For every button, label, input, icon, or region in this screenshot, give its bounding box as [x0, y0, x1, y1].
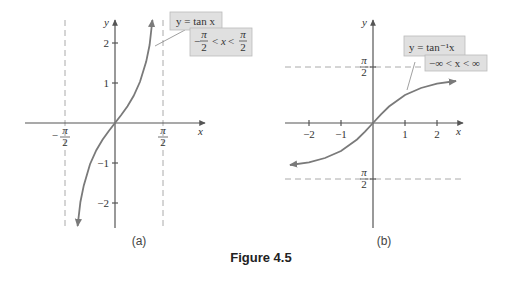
- callout-line-b: [407, 62, 415, 90]
- x-tick-1: 1: [402, 128, 408, 140]
- caption-b: (b): [377, 234, 392, 248]
- svg-text:π: π: [201, 28, 207, 40]
- svg-text:<: <: [212, 35, 218, 47]
- y-tick-neg2: −2: [97, 197, 109, 209]
- y-tick-2: 2: [104, 37, 110, 49]
- y-tick-1: 1: [104, 77, 110, 89]
- caption-a: (a): [132, 234, 147, 248]
- domain-label-b: −∞ < x < ∞: [429, 57, 480, 69]
- x-axis-label-b: x: [455, 125, 461, 137]
- function-label-b: y = tan⁻¹x: [409, 41, 455, 53]
- panel-a: x y 2 1 −1 −2 − π 2 π 2 y =: [25, 12, 252, 248]
- panel-b: x y −2 −1 1 2 π 2 π 2: [285, 16, 487, 248]
- svg-text:2: 2: [160, 136, 166, 148]
- y-axis-label-b: y: [361, 16, 367, 28]
- svg-text:π: π: [240, 28, 246, 40]
- y-axis-label: y: [103, 16, 109, 28]
- svg-text:−: −: [194, 35, 200, 47]
- x-tick-neg-pi-over-2: − π 2: [52, 124, 70, 148]
- x-tick-2: 2: [434, 128, 440, 140]
- y-tick-neg1: −1: [97, 157, 109, 169]
- svg-text:π: π: [62, 124, 68, 136]
- x-tick-neg2: −2: [303, 128, 315, 140]
- svg-text:−: −: [52, 129, 58, 141]
- svg-text:2: 2: [62, 136, 68, 148]
- callout-line-a: [155, 30, 185, 46]
- svg-text:2: 2: [361, 178, 367, 190]
- svg-text:x: x: [220, 35, 226, 47]
- x-axis-label: x: [197, 125, 203, 137]
- figure-title: Figure 4.5: [230, 250, 291, 265]
- function-label-a: y = tan x: [176, 15, 215, 27]
- x-tick-neg1: −1: [335, 128, 347, 140]
- svg-text:π: π: [361, 166, 367, 178]
- svg-text:2: 2: [240, 41, 246, 53]
- figure-canvas: x y 2 1 −1 −2 − π 2 π 2 y =: [0, 0, 507, 282]
- svg-text:<: <: [228, 35, 234, 47]
- x-tick-pi-over-2: π 2: [158, 124, 168, 148]
- svg-text:2: 2: [201, 41, 207, 53]
- svg-text:π: π: [160, 124, 166, 136]
- svg-text:2: 2: [361, 66, 367, 78]
- svg-text:π: π: [361, 54, 367, 66]
